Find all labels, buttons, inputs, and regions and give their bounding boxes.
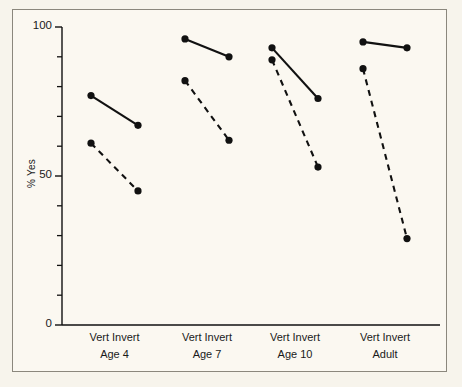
x-group-conditions-age-4: Vert Invert [65,331,165,343]
series-line [185,39,229,57]
x-group-label-age-7: Age 7 [157,348,257,360]
x-group-conditions-adult: Vert Invert [335,331,435,343]
series-line [272,48,318,99]
data-point-marker [268,44,275,51]
series-line [363,42,407,48]
series-line [91,96,138,126]
data-point-marker [268,56,275,63]
x-group-label-adult: Adult [335,348,435,360]
data-point-marker [403,235,410,242]
chart-axes [62,27,440,325]
chart-canvas [0,0,462,387]
data-point-marker [403,44,410,51]
data-point-marker [181,77,188,84]
data-point-marker [359,65,366,72]
y-tick-label-100: 100 [22,19,52,31]
series-line [272,60,318,167]
data-point-marker [87,92,94,99]
data-point-marker [314,95,321,102]
data-point-marker [181,35,188,42]
data-series-layer [87,35,410,242]
data-point-marker [134,187,141,194]
y-tick-label-50: 50 [22,168,52,180]
x-group-label-age-10: Age 10 [245,348,345,360]
axis-ticks [55,27,62,325]
series-line [363,69,407,239]
series-line [91,143,138,191]
data-point-marker [359,38,366,45]
data-point-marker [87,140,94,147]
data-point-marker [134,122,141,129]
data-point-marker [225,137,232,144]
data-point-marker [225,53,232,60]
x-group-conditions-age-7: Vert Invert [157,331,257,343]
x-group-label-age-4: Age 4 [65,348,165,360]
x-group-conditions-age-10: Vert Invert [245,331,345,343]
data-point-marker [314,163,321,170]
series-line [185,81,229,141]
y-tick-label-0: 0 [22,317,52,329]
